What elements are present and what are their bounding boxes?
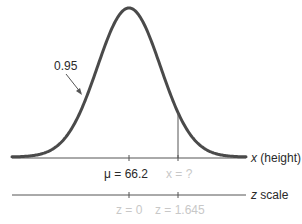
normal-curve (12, 8, 246, 157)
mean-label: μ = 66.2 (104, 167, 148, 181)
z-cutoff-label: z = 1.645 (155, 203, 205, 217)
z-zero-label: z = 0 (116, 203, 143, 217)
z-axis-label: z scale (250, 188, 289, 202)
x-unknown-label: x = ? (166, 167, 193, 181)
x-axis-label: x (height) (250, 151, 301, 165)
area-label: 0.95 (54, 59, 78, 73)
normal-distribution-diagram: x (height) μ = 66.2 x = ? z scale z = 0 … (0, 0, 302, 224)
arrowhead-icon (76, 88, 82, 95)
